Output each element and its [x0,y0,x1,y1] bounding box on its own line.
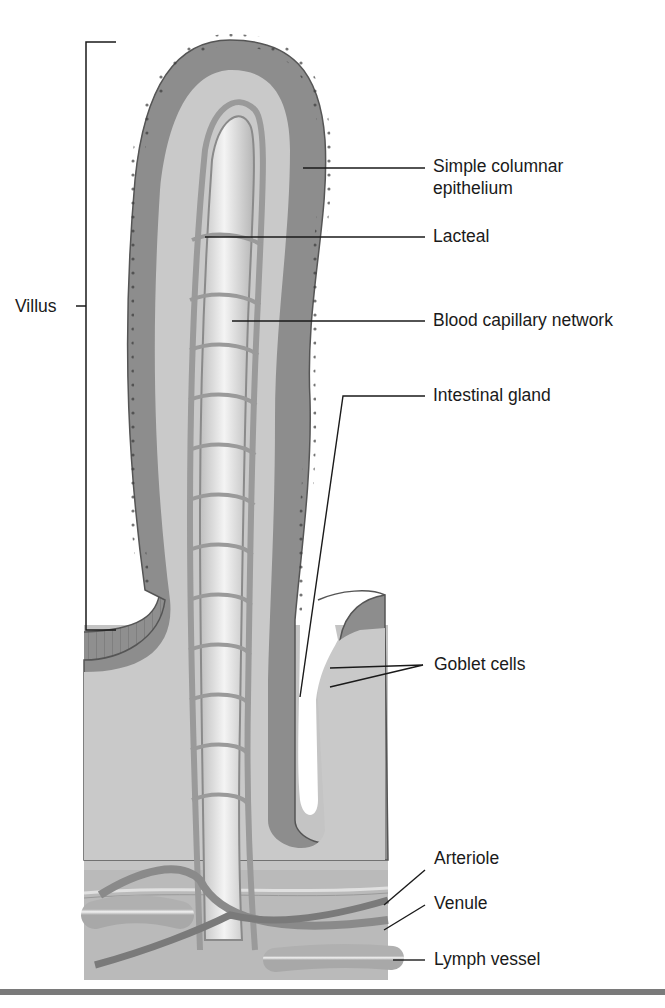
leader-arteriole [384,870,425,905]
label-intestinal-gland: Intestinal gland [433,385,551,406]
label-arteriole: Arteriole [434,848,499,869]
villus-diagram [0,0,665,1008]
label-goblet-cells: Goblet cells [434,654,525,675]
leader-venule [384,905,425,930]
villus-bracket [76,42,116,630]
label-lacteal: Lacteal [433,226,489,247]
label-lymph-vessel: Lymph vessel [434,949,540,970]
label-simple-columnar-epithelium-line2: epithelium [433,178,513,199]
label-blood-capillary-network: Blood capillary network [433,310,613,331]
label-simple-columnar-epithelium-line1: Simple columnar [433,156,563,177]
lymph-vessel [275,956,392,960]
label-venule: Venule [434,893,488,914]
bottom-rule [0,989,665,995]
label-villus: Villus [15,296,57,317]
